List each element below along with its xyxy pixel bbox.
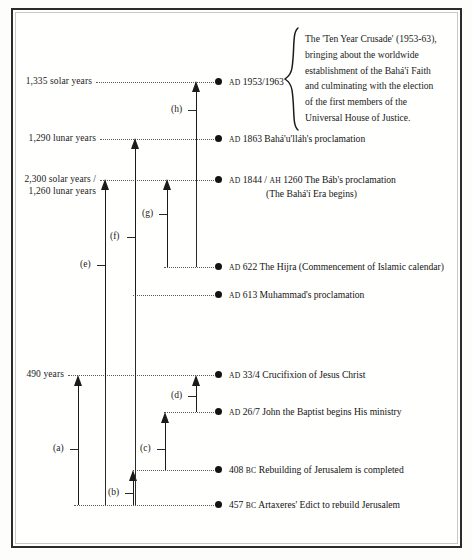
measure-arrow-a-head: [74, 375, 82, 386]
guide-line-622: [164, 267, 214, 268]
measure-arrow-e-head: [101, 179, 109, 190]
event-text-1953: 1953/1963: [243, 76, 284, 87]
measure-arrow-b-shaft: [133, 481, 134, 505]
era-ad-26: AD: [229, 408, 240, 417]
connector-e-base: [105, 380, 106, 505]
measure-arrow-f-head: [131, 138, 139, 149]
measure-arrow-h-head: [192, 81, 200, 92]
key-tick-f: [127, 237, 135, 238]
era-bc-457: BC: [246, 501, 257, 510]
era-ad-1844: AD: [229, 176, 240, 185]
measure-arrow-d-shaft: [196, 386, 197, 412]
event-year-408: 408: [229, 464, 243, 475]
event-text-1863: 1863 Bahá'u'lláh's proclamation: [243, 133, 365, 144]
measure-arrow-a-shaft: [78, 386, 79, 505]
connector-f-base: [135, 295, 136, 505]
era-ad-1953: AD: [229, 78, 240, 87]
key-tick-d: [188, 396, 196, 397]
note-brace-icon: [283, 26, 303, 132]
span-label-1335: 1,335 solar years: [0, 76, 92, 88]
event-label-613: AD 613 Muhammad's proclamation: [229, 289, 364, 302]
event-label-408: 408 BC Rebuilding of Jerusalem is comple…: [229, 464, 404, 477]
measure-arrow-d-head: [192, 375, 200, 386]
key-letter-f: (f): [110, 231, 120, 242]
event-dot-613: [215, 291, 222, 298]
key-letter-h: (h): [171, 104, 182, 115]
measure-arrow-c-head: [161, 412, 169, 423]
event-label-26: AD 26/7 John the Baptist begins His mini…: [229, 406, 402, 419]
era-ad-1863: AD: [229, 135, 240, 144]
event-text-622: 622 The Hijra (Commencement of Islamic c…: [243, 261, 444, 272]
event-text-1260: 1260 The Báb's proclamation: [283, 174, 396, 185]
event-label-1953: AD 1953/1963: [229, 76, 284, 89]
measure-arrow-h-shaft: [196, 92, 197, 180]
event-text-33: 33/4 Crucifixion of Jesus Christ: [243, 369, 366, 380]
span-label-1290: 1,290 lunar years: [0, 133, 96, 145]
event-dot-33: [215, 371, 222, 378]
key-tick-a: [70, 449, 78, 450]
event-year-457: 457: [229, 499, 243, 510]
timeline-diagram-page: 1,335 solar years 1,290 lunar years 2,30…: [0, 0, 472, 560]
era-ad-33: AD: [229, 371, 240, 380]
event-text-457: Artaxeres' Edict to rebuild Jerusalem: [258, 499, 400, 510]
guide-line-26: [164, 412, 214, 413]
event-dot-1863: [215, 135, 222, 142]
event-text-408: Rebuilding of Jerusalem is completed: [259, 464, 404, 475]
note-text: The 'Ten Year Crusade' (1953-63), bringi…: [305, 31, 465, 126]
event-label-33: AD 33/4 Crucifixion of Jesus Christ: [229, 369, 365, 382]
measure-arrow-g-head: [163, 179, 171, 190]
event-label-1863: AD 1863 Bahá'u'lláh's proclamation: [229, 133, 365, 146]
key-tick-c: [157, 449, 165, 450]
event-dot-457: [215, 501, 222, 508]
event-dot-408: [215, 466, 222, 473]
measure-arrow-c-shaft: [165, 423, 166, 470]
key-letter-a: (a): [53, 443, 64, 454]
span-label-490: 490 years: [0, 369, 64, 381]
key-tick-h: [188, 110, 196, 111]
event-subtext-1844: (The Bahá'í Era begins): [266, 188, 357, 200]
event-label-457: 457 BC Artaxeres' Edict to rebuild Jerus…: [229, 499, 400, 512]
key-letter-c: (c): [140, 443, 151, 454]
guide-line-408: [133, 470, 214, 471]
key-letter-b: (b): [108, 487, 119, 498]
span-label-2300-1260: 2,300 solar years / 1,260 lunar years: [0, 174, 96, 197]
guide-line-613: [133, 295, 214, 296]
key-tick-e: [97, 265, 105, 266]
measure-arrow-f-shaft: [135, 149, 136, 295]
key-tick-g: [159, 214, 167, 215]
era-ad-622: AD: [229, 263, 240, 272]
key-letter-g: (g): [142, 208, 153, 219]
measure-arrow-g-shaft: [167, 190, 168, 267]
guide-line-457: [74, 505, 214, 506]
key-letter-e: (e): [80, 259, 91, 270]
key-tick-b: [125, 493, 133, 494]
event-text-613: 613 Muhammad's proclamation: [243, 289, 365, 300]
event-dot-1844: [215, 176, 222, 183]
era-ah-1260: AH: [269, 176, 280, 185]
event-dot-26: [215, 408, 222, 415]
event-text-1844: 1844 /: [243, 174, 267, 185]
event-label-1844: AD 1844 / AH 1260 The Báb's proclamation: [229, 174, 396, 187]
era-bc-408: BC: [246, 466, 257, 475]
event-dot-622: [215, 263, 222, 270]
event-label-622: AD 622 The Hijra (Commencement of Islami…: [229, 261, 444, 274]
era-ad-613: AD: [229, 291, 240, 300]
event-text-26: 26/7 John the Baptist begins His ministr…: [243, 406, 402, 417]
event-dot-1953: [215, 78, 222, 85]
key-letter-d: (d): [171, 390, 182, 401]
connector-622-to-1844: [196, 180, 197, 267]
